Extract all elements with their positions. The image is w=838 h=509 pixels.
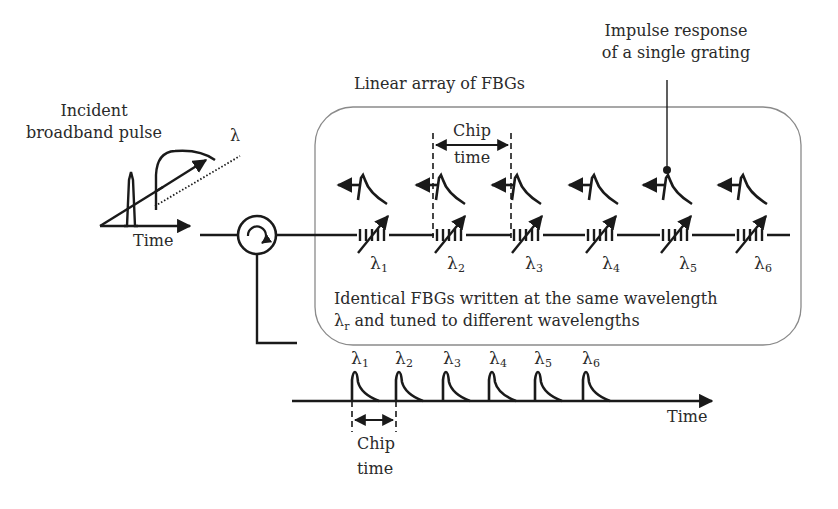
incident-pulse-plot (100, 151, 240, 226)
output-pulse-6 (583, 372, 610, 401)
output-pulse-label-2: λ2 (395, 350, 413, 369)
chip-time-upper-line1: Chip (453, 123, 491, 139)
reflected-impulse-1 (338, 175, 387, 204)
lambda-symbol: λ (602, 253, 613, 273)
lambda-symbol: λ (754, 253, 765, 273)
reflected-impulse-2 (416, 175, 465, 204)
impulse-response-label: Impulse response of a single grating (602, 20, 750, 64)
array-title: Linear array of FBGs (354, 76, 525, 92)
output-port-fiber (257, 254, 297, 343)
incident-pulse-label-line1: Incident (26, 100, 162, 122)
lambda-subscript: 6 (593, 357, 600, 370)
callout-dot (663, 166, 671, 174)
lambda-axis-base (100, 187, 163, 226)
output-time-axis-label: Time (667, 409, 707, 425)
grating-1 (357, 216, 389, 253)
output-pulse-2 (396, 372, 423, 401)
lambda-subscript: 1 (362, 357, 369, 370)
lambda-symbol: λ (334, 311, 344, 330)
lambda-axis-arrow (155, 160, 206, 192)
reflected-impulse-5 (643, 175, 692, 204)
grating-label-5: λ5 (679, 255, 697, 274)
output-pulse-label-5: λ5 (534, 350, 552, 369)
lambda-axis-dotted (155, 156, 240, 206)
lambda-subscript: 4 (500, 357, 507, 370)
output-pulse-4 (489, 372, 516, 401)
grating-3 (511, 216, 543, 253)
lambda-subscript: 3 (454, 357, 461, 370)
incident-pulse-label: Incident broadband pulse (26, 100, 162, 144)
grating-label-1: λ1 (370, 255, 388, 274)
output-pulse-label-1: λ1 (351, 350, 369, 369)
fbg-array-diagram: Incident broadband pulse λ Time Linear a… (0, 0, 838, 509)
impulse-response-label-line2: of a single grating (602, 42, 750, 64)
lambda-symbol: λ (525, 253, 536, 273)
impulse-response-label-line1: Impulse response (602, 20, 750, 42)
incident-time-axis-label: Time (133, 233, 173, 249)
lambda-subscript: 5 (545, 357, 552, 370)
lambda-subscript: 3 (536, 262, 543, 275)
output-pulse-label-4: λ4 (489, 350, 507, 369)
grating-label-4: λ4 (602, 255, 620, 274)
grating-2 (434, 216, 466, 253)
chip-time-lower-line1: Chip (357, 436, 395, 452)
grating-4 (585, 216, 617, 253)
output-pulse-label-6: λ6 (582, 350, 600, 369)
reflected-impulses (338, 175, 767, 204)
box-note-line2: λr and tuned to different wavelengths (334, 310, 717, 338)
circulator (238, 216, 276, 254)
lambda-symbol: λ (395, 348, 406, 368)
reflected-impulse-4 (569, 175, 618, 204)
output-pulse-3 (443, 372, 470, 401)
lambda-subscript: 6 (765, 262, 772, 275)
chip-time-lower (352, 401, 396, 432)
chip-time-lower-line2: time (357, 461, 393, 477)
grating-6 (735, 216, 767, 253)
lambda-symbol: λ (370, 253, 381, 273)
lambda-symbol: λ (679, 253, 690, 273)
reflected-impulse-6 (718, 175, 767, 204)
pulse-spike (124, 172, 138, 226)
lambda-subscript: 2 (458, 262, 465, 275)
lambda-symbol: λ (489, 348, 500, 368)
lambda-symbol: λ (447, 253, 458, 273)
output-pulse-1 (352, 372, 379, 401)
lambda-symbol: λ (351, 348, 362, 368)
lambda-symbol: λ (582, 348, 593, 368)
lambda-symbol: λ (534, 348, 545, 368)
lambda-subscript: 4 (613, 262, 620, 275)
incident-pulse-label-line2: broadband pulse (26, 122, 162, 144)
lambda-axis-label: λ (230, 128, 240, 144)
output-pulses (352, 372, 610, 401)
grating-label-6: λ6 (754, 255, 772, 274)
output-pulse-5 (535, 372, 562, 401)
chip-time-upper-line2: time (454, 150, 490, 166)
grating-label-3: λ3 (525, 255, 543, 274)
box-note-line2-text: and tuned to different wavelengths (349, 311, 639, 330)
lambda-subscript: 2 (406, 357, 413, 370)
lambda-subscript: 1 (381, 262, 388, 275)
lambda-subscript: 5 (690, 262, 697, 275)
grating-label-2: λ2 (447, 255, 465, 274)
box-note: Identical FBGs written at the same wavel… (334, 288, 717, 338)
grating-5 (660, 216, 692, 253)
box-note-line1: Identical FBGs written at the same wavel… (334, 288, 717, 310)
output-pulse-label-3: λ3 (443, 350, 461, 369)
reflected-impulse-3 (492, 175, 541, 204)
lambda-symbol: λ (443, 348, 454, 368)
